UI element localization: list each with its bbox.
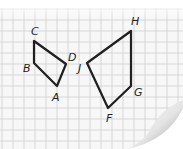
vertex-label-d: D [68, 51, 76, 64]
grid-paper-diagram: CBADHGFJ [0, 0, 183, 149]
vertex-label-c: C [31, 25, 39, 38]
vertex-label-h: H [131, 15, 139, 28]
vertex-label-a: A [51, 91, 60, 104]
top-fade [0, 0, 183, 20]
vertex-label-f: F [106, 112, 113, 125]
vertex-label-g: G [134, 86, 143, 99]
diagram-canvas: CBADHGFJ [0, 0, 183, 149]
vertex-label-b: B [23, 62, 31, 75]
